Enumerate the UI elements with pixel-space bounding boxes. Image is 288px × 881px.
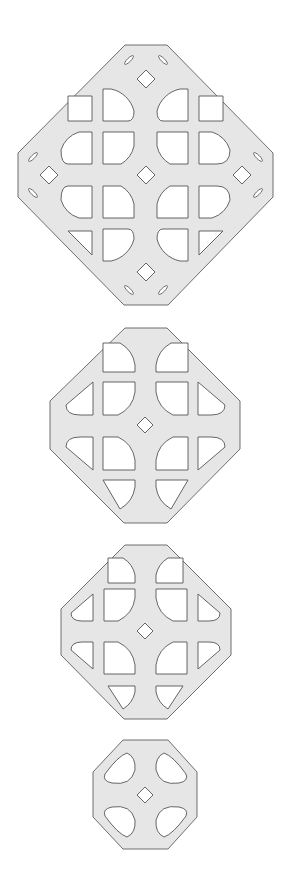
stacked-plates-canvas <box>0 0 288 881</box>
cutout-hole <box>68 96 92 121</box>
large-grid-plate <box>18 45 273 305</box>
medium-plate-a <box>50 328 240 523</box>
cutout-hole <box>199 96 223 121</box>
medium-plate-b <box>61 545 231 719</box>
small-plate <box>93 740 197 849</box>
